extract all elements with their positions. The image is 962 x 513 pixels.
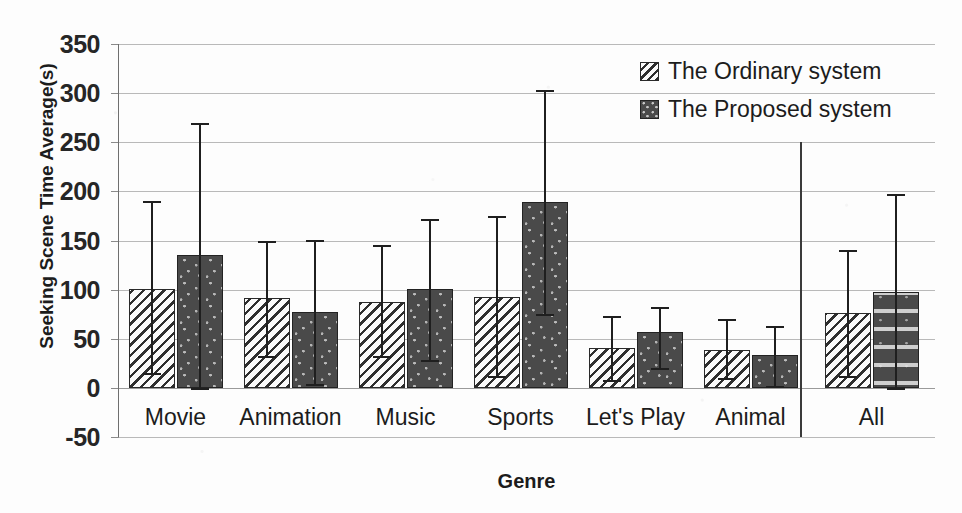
error-bar-stem [774, 326, 776, 386]
y-tick-text: 150 [60, 226, 100, 255]
error-bar-cap-upper [718, 319, 736, 321]
y-tick-text: 350 [60, 30, 100, 59]
y-tick-text: -50 [65, 423, 100, 452]
y-tick-text: 300 [60, 79, 100, 108]
error-bar-cap-upper [373, 245, 391, 247]
y-tick-text: 0 [87, 373, 100, 402]
legend-label-ordinary: The Ordinary system [668, 58, 881, 85]
error-bar-stem [199, 123, 201, 388]
x-tick-label-all: All [808, 404, 935, 431]
error-bar-cap-upper [258, 241, 276, 243]
error-bar-cap-lower [536, 314, 554, 316]
error-bar-cap-upper [536, 90, 554, 92]
y-tick-text: 50 [73, 324, 100, 353]
error-bar-cap-lower [258, 356, 276, 358]
gridline--50 [118, 437, 935, 438]
x-tick-label-animation: Animation [233, 404, 348, 431]
y-axis-line [118, 44, 119, 437]
error-bar-stem [314, 240, 316, 384]
error-bar-cap-lower [488, 376, 506, 378]
error-bar-stem [847, 250, 849, 376]
x-tick-label-movie: Movie [118, 404, 233, 431]
x-tick-label-music: Music [348, 404, 463, 431]
legend-item-ordinary: The Ordinary system [640, 58, 892, 85]
error-bar-cap-lower [766, 386, 784, 388]
gridline-200 [118, 191, 935, 192]
legend-item-proposed: The Proposed system [640, 96, 892, 123]
error-bar-stem [726, 319, 728, 378]
y-tick-text: 100 [60, 275, 100, 304]
error-bar-stem [429, 219, 431, 360]
error-bar-cap-upper [191, 123, 209, 125]
y-tick-mark--50 [111, 437, 119, 438]
error-bar-stem [496, 216, 498, 376]
bar-chart: 350300250200150100500-50 Seeking Scene T… [0, 0, 962, 513]
error-bar-stem [611, 316, 613, 380]
error-bar-stem [381, 245, 383, 356]
error-bar-cap-upper [488, 216, 506, 218]
error-bar-cap-lower [373, 356, 391, 358]
x-axis-title: Genre [118, 470, 935, 493]
error-bar-stem [151, 201, 153, 373]
error-bar-cap-upper [651, 307, 669, 309]
error-bar-cap-lower [603, 380, 621, 382]
error-bar-cap-lower [306, 384, 324, 386]
y-tick-text: 250 [60, 128, 100, 157]
x-tick-label-letsplay: Let's Play [578, 404, 693, 431]
error-bar-cap-lower [651, 368, 669, 370]
gridline-350 [118, 44, 935, 45]
chart-legend: The Ordinary system The Proposed system [640, 58, 892, 134]
error-bar-cap-lower [887, 388, 905, 390]
error-bar-stem [659, 307, 661, 368]
error-bar-cap-lower [718, 378, 736, 380]
hatch-swatch-icon [640, 62, 659, 81]
error-bar-cap-lower [839, 376, 857, 378]
y-axis-title: Seeking Scene Time Average(s) [36, 41, 58, 371]
error-bar-cap-lower [421, 360, 439, 362]
error-bar-stem [895, 194, 897, 388]
error-bar-cap-upper [887, 194, 905, 196]
error-bar-stem [266, 241, 268, 357]
x-tick-label-sports: Sports [463, 404, 578, 431]
dotted-swatch-icon [640, 100, 659, 119]
error-bar-stem [544, 90, 546, 314]
group-separator [800, 142, 802, 437]
error-bar-cap-upper [766, 326, 784, 328]
error-bar-cap-upper [143, 201, 161, 203]
error-bar-cap-lower [143, 373, 161, 375]
y-tick-label: 0 [0, 388, 100, 417]
error-bar-cap-upper [421, 219, 439, 221]
x-tick-label-animal: Animal [693, 404, 808, 431]
gridline-250 [118, 142, 935, 143]
y-tick-text: 200 [60, 177, 100, 206]
error-bar-cap-lower [191, 388, 209, 390]
error-bar-cap-upper [603, 316, 621, 318]
legend-label-proposed: The Proposed system [668, 96, 892, 123]
y-tick-label: -50 [0, 437, 100, 466]
error-bar-cap-upper [839, 250, 857, 252]
error-bar-cap-upper [306, 240, 324, 242]
gridline-0 [118, 388, 935, 389]
